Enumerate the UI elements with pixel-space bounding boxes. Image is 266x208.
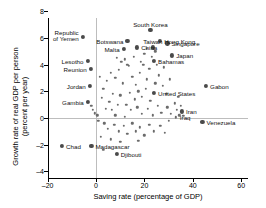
y-tick-label: –2 [36, 141, 44, 148]
data-point [129, 91, 131, 93]
y-tick-mark [44, 38, 48, 39]
x-tick-label: 20 [140, 182, 148, 189]
data-point-labeled [81, 35, 85, 39]
data-point-labeled [125, 39, 129, 43]
data-point [141, 113, 143, 115]
point-label-china: China [141, 44, 157, 51]
y-axis-label-line2: (percent per year) [20, 27, 29, 187]
data-point-labeled [200, 120, 204, 124]
y-tick-label: 2 [40, 88, 44, 95]
data-point [131, 75, 133, 77]
data-point-labeled [121, 47, 125, 51]
point-label-south-korea: South Korea [133, 20, 167, 27]
data-point [134, 98, 136, 100]
y-tick-label: 8 [40, 8, 44, 15]
x-axis-label: Saving rate (percentage of GDP) [93, 192, 202, 201]
data-point [138, 126, 140, 128]
point-label-taiwan: Taiwan [143, 37, 162, 44]
data-point [132, 55, 134, 57]
data-point [120, 61, 122, 63]
data-point [152, 114, 154, 116]
data-point [166, 106, 168, 108]
x-tick-label: 60 [237, 182, 245, 189]
data-point-labeled [115, 152, 119, 156]
y-axis-label: Growth rate of real GDP per person (perc… [12, 27, 29, 187]
data-point [173, 102, 175, 104]
data-point [104, 107, 106, 109]
data-point [100, 135, 102, 137]
data-point [113, 123, 115, 125]
data-point [131, 122, 133, 124]
data-point [92, 109, 94, 111]
data-point [117, 103, 119, 105]
point-label-iraq: Iraq [180, 114, 191, 121]
data-point [154, 82, 156, 84]
point-label-reunion: Reunion [64, 65, 87, 72]
data-point-labeled [86, 100, 90, 104]
data-point-labeled [148, 28, 152, 32]
data-point [153, 130, 155, 132]
data-point-labeled [88, 84, 92, 88]
data-point [114, 114, 116, 116]
data-point [163, 66, 165, 68]
data-point-labeled [60, 144, 64, 148]
data-point-labeled [135, 45, 139, 49]
point-label-madagascar: Madagascar [95, 142, 129, 149]
point-label-singapore: Singapore [171, 40, 199, 47]
point-label-gambia: Gambia [62, 99, 84, 106]
data-point-labeled [152, 91, 156, 95]
data-point [101, 97, 103, 99]
point-label-lesotho: Lesotho [61, 57, 83, 64]
data-point [114, 77, 116, 79]
data-point [176, 109, 178, 111]
data-point [135, 130, 137, 132]
data-point-labeled [89, 144, 93, 148]
data-point [111, 109, 113, 111]
data-point [118, 130, 120, 132]
data-point [123, 125, 125, 127]
point-label-malta: Malta [104, 45, 119, 52]
data-point [144, 87, 146, 89]
data-point [146, 78, 148, 80]
data-point [170, 113, 172, 115]
y-tick-mark [44, 118, 48, 119]
data-point [126, 133, 128, 135]
data-point [136, 106, 138, 108]
y-tick-mark [44, 91, 48, 92]
x-tick-label: 40 [189, 182, 197, 189]
data-point [118, 69, 120, 71]
data-point [164, 131, 166, 133]
data-point [161, 85, 163, 87]
data-point-labeled [89, 67, 93, 71]
point-label-chad: Chad [66, 142, 81, 149]
data-point [115, 57, 117, 59]
data-point [150, 55, 152, 57]
data-point-labeled [85, 59, 89, 63]
data-point [121, 82, 123, 84]
data-point-labeled [152, 59, 156, 63]
data-point [109, 71, 111, 73]
data-point [158, 74, 160, 76]
data-point-labeled [204, 84, 208, 88]
data-point [141, 95, 143, 97]
point-label-botswana: Botswana [96, 37, 123, 44]
data-point [137, 139, 139, 141]
data-point [112, 93, 114, 95]
y-tick-label: –4 [36, 168, 44, 175]
data-point [148, 67, 150, 69]
data-point [149, 99, 151, 101]
point-label-djibouti: Djibouti [121, 150, 142, 157]
data-point [179, 105, 181, 107]
data-point [97, 119, 99, 121]
data-point [167, 119, 169, 121]
y-tick-mark [44, 145, 48, 146]
data-point [138, 71, 140, 73]
data-point [102, 87, 104, 89]
data-point [119, 94, 121, 96]
data-point [147, 107, 149, 109]
data-point [160, 111, 162, 113]
point-label-gabon: Gabon [210, 83, 229, 90]
data-point [142, 63, 144, 65]
data-point [135, 83, 137, 85]
data-point [106, 79, 108, 81]
